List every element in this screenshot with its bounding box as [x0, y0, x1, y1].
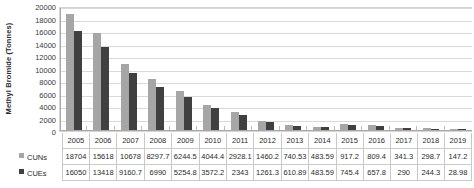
legend-item-cues[interactable]: CUEs [16, 165, 62, 181]
table-cell-value: 15618 [90, 149, 117, 165]
table-cell-value: 2343 [226, 165, 253, 181]
table-cell-value: 290 [390, 165, 417, 181]
y-axis-tick-label: 8000 [39, 78, 56, 87]
bar-cuns-2016 [368, 125, 376, 130]
table-header-year: 2006 [90, 133, 117, 149]
table-header-year: 2010 [199, 133, 226, 149]
bar-group [280, 8, 307, 130]
table-cell-value: 809.4 [363, 149, 390, 165]
table-header-year: 2018 [417, 133, 444, 149]
table-cell-value: 745.4 [336, 165, 363, 181]
bar-cues-2015 [348, 125, 356, 130]
table-cell-value: 341.3 [390, 149, 417, 165]
table-row-years: 2005200620072008200920102011201220132014… [16, 133, 472, 149]
bar-group [390, 8, 417, 130]
bar-cues-2013 [293, 126, 301, 130]
bar-cuns-2015 [340, 124, 348, 130]
bar-group [307, 8, 334, 130]
plot-area [59, 7, 472, 132]
bar-cuns-2007 [121, 64, 129, 130]
bar-group [445, 8, 472, 130]
table-header-year: 2011 [226, 133, 253, 149]
chart-data-table: 2005200620072008200920102011201220132014… [16, 133, 472, 181]
legend-swatch-icon [19, 153, 24, 158]
bar-cues-2016 [376, 126, 384, 130]
table-header-year: 2012 [254, 133, 281, 149]
table-header-year: 2013 [281, 133, 308, 149]
y-axis-tick-label: 10000 [35, 65, 56, 74]
legend-item-cuns[interactable]: CUNs [16, 149, 62, 165]
table-cell-value: 10678 [117, 149, 144, 165]
bar-cuns-2018 [423, 128, 431, 130]
bar-group [335, 8, 362, 130]
y-axis-tick-label: 14000 [35, 40, 56, 49]
bar-group [225, 8, 252, 130]
methyl-bromide-bar-chart: Methyl Bromide (Tonnes) 2000018000160001… [0, 0, 474, 188]
bar-cues-2018 [431, 129, 439, 131]
bar-group [142, 8, 169, 130]
table-cell-value: 740.53 [281, 149, 308, 165]
table-cell-value: 2928.1 [226, 149, 253, 165]
y-axis-tick-label: 18000 [35, 15, 56, 24]
table-header-year: 2017 [390, 133, 417, 149]
bar-cuns-2012 [258, 121, 266, 130]
table-cell-value: 244.3 [417, 165, 444, 181]
y-axis-tick-labels: 2000018000160001400012000100008000600040… [16, 4, 58, 132]
bar-cuns-2009 [176, 91, 184, 130]
table-cell-value: 657.8 [363, 165, 390, 181]
bar-cues-2017 [403, 128, 411, 130]
y-axis-tick-label: 4000 [39, 103, 56, 112]
bars-layer [60, 8, 472, 130]
bar-cues-2014 [321, 127, 329, 130]
table-header-year: 2016 [363, 133, 390, 149]
table-cell-value: 13418 [90, 165, 117, 181]
table-cell-value: 8297.7 [144, 149, 171, 165]
bar-cues-2009 [184, 97, 192, 130]
legend-swatch-icon [19, 169, 24, 174]
bar-cuns-2010 [203, 105, 211, 130]
bar-cues-2019 [458, 129, 466, 130]
bar-group [115, 8, 142, 130]
table-cell-value: 4044.4 [199, 149, 226, 165]
bar-cuns-2011 [231, 112, 239, 130]
legend-label: CUNs [27, 152, 47, 161]
table-cell-value: 5254.8 [172, 165, 199, 181]
table-row: CUEs16050134189160.769905254.83572.22343… [16, 165, 472, 181]
bar-cuns-2006 [93, 33, 101, 130]
bar-cuns-2014 [313, 127, 321, 130]
bar-cuns-2013 [285, 125, 293, 130]
y-axis-tick-label: 20000 [35, 3, 56, 12]
table-cell-value: 1460.2 [254, 149, 281, 165]
bar-cues-2008 [156, 87, 164, 130]
bar-cues-2005 [74, 31, 82, 131]
bar-group [197, 8, 224, 130]
table-cell-value: 18704 [62, 149, 89, 165]
bar-group [362, 8, 389, 130]
table-header-year: 2008 [144, 133, 171, 149]
table-header-year: 2014 [309, 133, 336, 149]
table-cell-value: 28.98 [444, 165, 471, 181]
y-axis-tick-label: 12000 [35, 53, 56, 62]
bar-cues-2011 [239, 115, 247, 130]
table-cell-value: 9160.7 [117, 165, 144, 181]
table-cell-value: 917.2 [336, 149, 363, 165]
bar-cues-2012 [266, 122, 274, 130]
table-header-year: 2005 [62, 133, 89, 149]
table-cell-value: 6990 [144, 165, 171, 181]
bar-group [170, 8, 197, 130]
x-axis-line [60, 130, 472, 131]
table-cell-value: 3572.2 [199, 165, 226, 181]
bar-cues-2010 [211, 108, 219, 130]
bar-cuns-2017 [395, 128, 403, 130]
bar-group [252, 8, 279, 130]
bar-group [417, 8, 444, 130]
table-cell-value: 298.7 [417, 149, 444, 165]
legend-label: CUEs [27, 168, 47, 177]
y-axis-tick-label: 2000 [39, 115, 56, 124]
bar-cuns-2019 [450, 129, 458, 130]
bar-group [87, 8, 114, 130]
table-header-year: 2015 [336, 133, 363, 149]
table-cell-value: 147.2 [444, 149, 471, 165]
table-header-year: 2009 [172, 133, 199, 149]
y-axis-title-text: Methyl Bromide (Tonnes) [5, 22, 14, 114]
